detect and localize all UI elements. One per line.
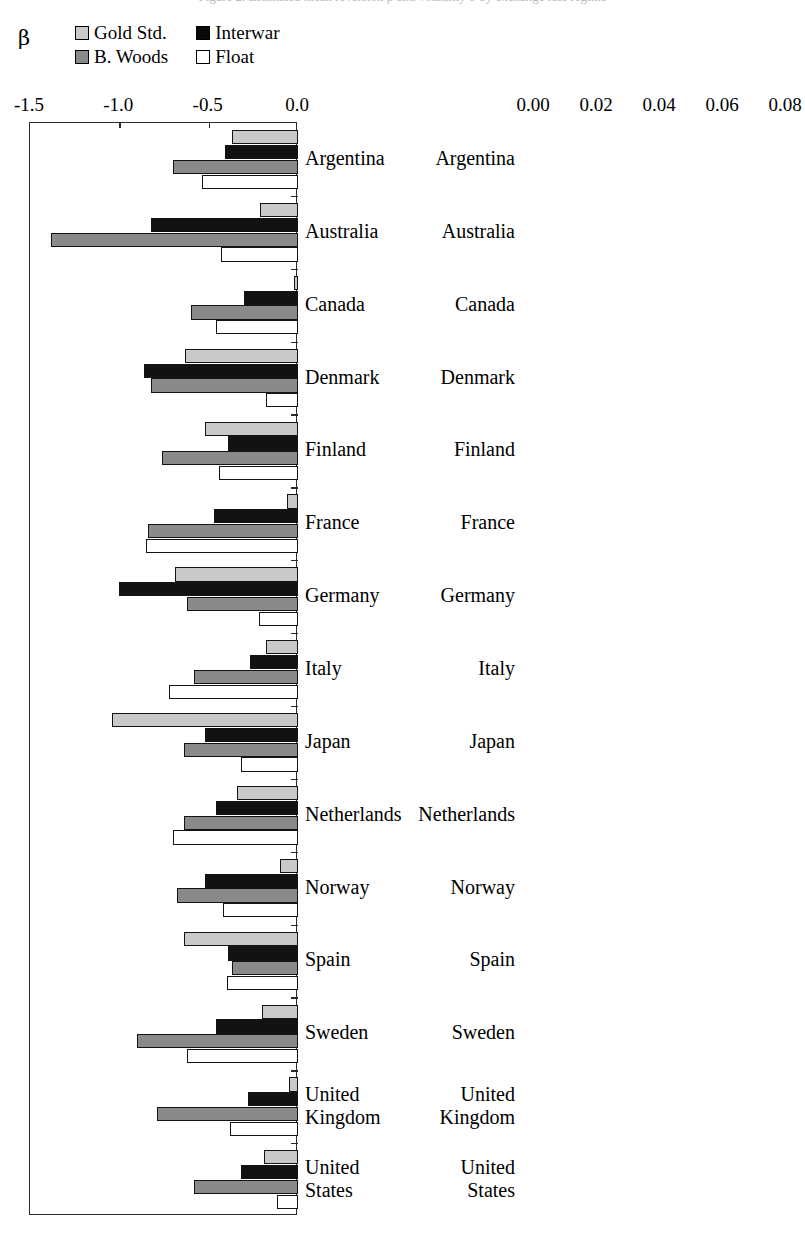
bar-b-woods xyxy=(232,961,298,975)
bar-interwar xyxy=(205,728,298,742)
bar-interwar xyxy=(241,1165,298,1179)
swatch-gold-std-icon xyxy=(75,26,89,40)
bar-gold-std xyxy=(264,1150,298,1164)
bar-float xyxy=(259,612,298,626)
bar-b-woods xyxy=(162,451,298,465)
country-label: Spain xyxy=(305,948,351,971)
bar-group xyxy=(30,487,296,560)
bar-b-woods xyxy=(137,1034,298,1048)
axis-labels-beta: -1.5-1.0-0.50.0 xyxy=(29,94,297,116)
country-label: Denmark xyxy=(305,366,379,389)
bar-gold-std xyxy=(184,932,298,946)
bar-interwar xyxy=(244,291,298,305)
bar-interwar xyxy=(250,655,298,669)
group-separator-tick xyxy=(291,1070,298,1071)
country-label: Germany xyxy=(441,584,515,607)
bar-gold-std xyxy=(112,713,298,727)
group-separator-tick xyxy=(291,997,298,998)
bar-interwar xyxy=(228,946,298,960)
country-label: Netherlands xyxy=(305,803,402,826)
bar-group xyxy=(30,560,296,633)
bar-float xyxy=(173,830,298,844)
country-label: Norway xyxy=(451,876,515,899)
bar-interwar xyxy=(228,436,298,450)
bar-gold-std xyxy=(262,1005,298,1019)
swatch-interwar-icon xyxy=(196,26,210,40)
bar-float xyxy=(230,1122,298,1136)
axis-tick-label: 0.00 xyxy=(516,94,549,116)
bar-float xyxy=(241,757,298,771)
bar-float xyxy=(277,1195,298,1209)
bar-group xyxy=(30,852,296,925)
country-label: Denmark xyxy=(441,366,515,389)
bar-float xyxy=(266,393,298,407)
country-label: Italy xyxy=(305,657,342,680)
group-separator-tick xyxy=(291,925,298,926)
group-separator-tick xyxy=(291,779,298,780)
country-label: France xyxy=(461,511,515,534)
bar-gold-std xyxy=(280,859,298,873)
group-separator-tick xyxy=(291,706,298,707)
bar-group xyxy=(30,269,296,342)
bar-b-woods xyxy=(173,160,298,174)
country-label: United States xyxy=(305,1156,359,1202)
legend-item-b-woods: B. Woods xyxy=(75,46,168,68)
beta-symbol: β xyxy=(18,26,30,50)
panel-sigma: σ Gold Std. Interwar B. Woods Float 0.00… xyxy=(400,0,805,1247)
country-label: United Kingdom xyxy=(439,1083,515,1129)
country-label: Sweden xyxy=(452,1021,515,1044)
group-separator-tick xyxy=(291,852,298,853)
axis-tick-label: 0.02 xyxy=(579,94,612,116)
bar-gold-std xyxy=(260,203,298,217)
bar-group xyxy=(30,706,296,779)
group-separator-tick xyxy=(291,633,298,634)
country-label: Germany xyxy=(305,584,379,607)
country-label: France xyxy=(305,511,359,534)
axis-tick-label: 0.0 xyxy=(285,94,309,116)
group-separator-tick xyxy=(291,487,298,488)
legend-item-float: Float xyxy=(196,46,279,68)
axis-labels-sigma: 0.000.020.040.060.08 xyxy=(533,94,785,116)
bar-gold-std xyxy=(287,494,298,508)
legend-label-b-woods: B. Woods xyxy=(94,46,168,68)
country-label: Italy xyxy=(478,657,515,680)
bar-b-woods xyxy=(194,1180,298,1194)
bar-gold-std xyxy=(237,786,298,800)
bar-gold-std xyxy=(232,130,298,144)
group-separator-tick xyxy=(291,342,298,343)
bar-interwar xyxy=(214,509,298,523)
bar-float xyxy=(216,320,298,334)
country-label: Netherlands xyxy=(418,803,515,826)
bar-interwar xyxy=(248,1092,298,1106)
bar-interwar xyxy=(216,1019,298,1033)
country-label: Australia xyxy=(305,220,378,243)
axis-tick-label: 0.08 xyxy=(768,94,801,116)
bar-gold-std xyxy=(266,640,298,654)
bar-float xyxy=(227,976,298,990)
bar-float xyxy=(223,903,298,917)
group-separator-tick xyxy=(291,269,298,270)
bar-float xyxy=(187,1049,298,1063)
swatch-b-woods-icon xyxy=(75,50,89,64)
country-label: Argentina xyxy=(305,147,385,170)
bar-interwar xyxy=(205,874,298,888)
bar-interwar xyxy=(144,364,298,378)
group-separator-tick xyxy=(291,414,298,415)
country-label: Australia xyxy=(442,220,515,243)
legend-label-gold-std: Gold Std. xyxy=(94,22,167,44)
bar-group xyxy=(30,414,296,487)
bar-b-woods xyxy=(184,743,298,757)
bar-group xyxy=(30,633,296,706)
country-label: Norway xyxy=(305,876,369,899)
bar-b-woods xyxy=(177,888,298,902)
country-label: Canada xyxy=(455,293,515,316)
bar-group xyxy=(30,779,296,852)
bar-group xyxy=(30,997,296,1070)
axis-tick-label: 0.06 xyxy=(705,94,738,116)
axis-tick-label: 0.04 xyxy=(642,94,675,116)
bar-group xyxy=(30,123,296,196)
bar-group xyxy=(30,1143,296,1216)
legend-label-interwar: Interwar xyxy=(215,22,279,44)
bar-b-woods xyxy=(187,597,298,611)
bar-group xyxy=(30,925,296,998)
